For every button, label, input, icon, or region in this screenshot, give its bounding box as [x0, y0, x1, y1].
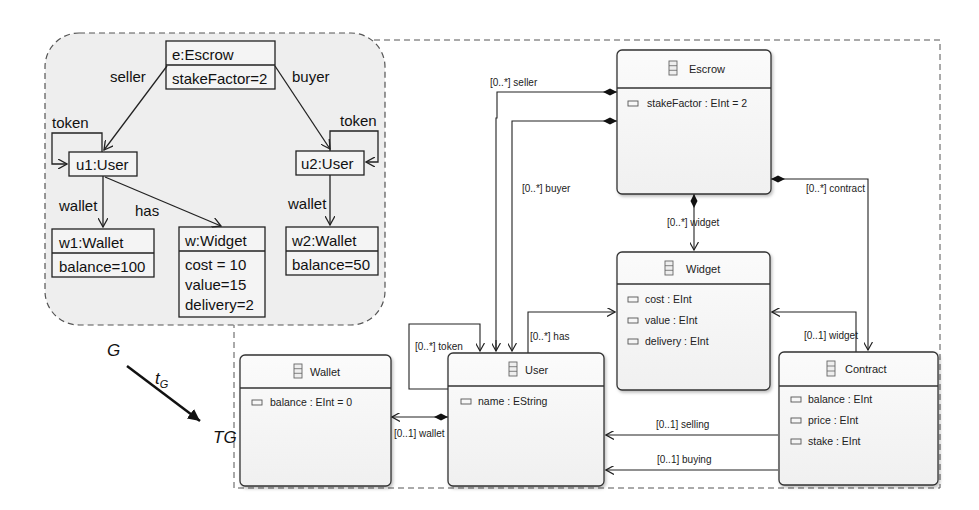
ref-token-label: [0..*] token — [415, 341, 463, 352]
class-escrow-name: Escrow — [689, 63, 725, 75]
class-widget-attr-value: value : EInt — [645, 314, 698, 326]
class-escrow-attr: stakeFactor : EInt = 2 — [647, 97, 747, 109]
edge-has-label: has — [135, 202, 159, 219]
class-contract-attr-price: price : EInt — [808, 414, 858, 426]
class-user-attr-name: name : EString — [478, 395, 548, 407]
object-w-attr-value: value=15 — [185, 276, 246, 293]
ref-has-label: [0..*] has — [530, 331, 569, 342]
edge-wallet-u1-label: wallet — [58, 197, 98, 214]
ref-widget-label: [0..*] widget — [667, 217, 719, 228]
ref-wallet-label: [0..1] wallet — [394, 428, 445, 439]
class-contract-attr-stake: stake : EInt — [808, 435, 861, 447]
class-widget-attr-delivery: delivery : EInt — [645, 335, 709, 347]
ref-buyer-label: [0..*] buyer — [522, 183, 571, 194]
object-w2-attr: balance=50 — [292, 256, 370, 273]
ref-contract — [771, 179, 868, 350]
class-icon — [827, 361, 835, 376]
class-icon — [669, 61, 677, 75]
object-w-attr-cost: cost = 10 — [185, 256, 246, 273]
object-w-name: w:Widget — [184, 232, 248, 249]
class-widget-attr-cost: cost : EInt — [645, 293, 692, 305]
ref-contract-widget-label: [0..1] widget — [804, 330, 858, 341]
edge-buyer-label: buyer — [292, 68, 330, 85]
edge-token-u1-label: token — [52, 114, 89, 131]
class-contract-attr-balance: balance : EInt — [808, 393, 872, 405]
class-icon — [294, 364, 302, 378]
instance-graph-label: G — [107, 341, 120, 360]
object-escrow[interactable]: e:Escrow stakeFactor=2 — [166, 41, 275, 89]
object-u2-name: u2:User — [301, 155, 354, 172]
object-w1-attr: balance=100 — [59, 258, 145, 275]
object-u1-user[interactable]: u1:User — [69, 152, 137, 176]
object-w1-wallet[interactable]: w1:Wallet balance=100 — [52, 229, 154, 277]
edge-seller-label: seller — [110, 68, 146, 85]
object-w2-wallet[interactable]: w2:Wallet balance=50 — [286, 227, 378, 275]
edge-wallet-u2-label: wallet — [287, 195, 327, 212]
ref-contract-label: [0..*] contract — [806, 183, 865, 194]
class-icon — [665, 261, 673, 275]
ref-buying-label: [0..1] buying — [657, 454, 711, 465]
object-u2-user[interactable]: u2:User — [296, 151, 364, 175]
edge-token-u2-label: token — [340, 112, 377, 129]
diagram-canvas: e:Escrow stakeFactor=2 u1:User u2:User w… — [0, 0, 979, 510]
class-icon — [509, 362, 517, 376]
object-escrow-attr: stakeFactor=2 — [172, 70, 267, 87]
class-user[interactable]: User name : EString — [448, 353, 604, 486]
class-contract-name: Contract — [845, 363, 887, 375]
class-contract[interactable]: Contract balance : EInt price : EInt sta… — [779, 352, 938, 485]
object-w2-name: w2:Wallet — [291, 232, 357, 249]
object-u1-name: u1:User — [76, 156, 129, 173]
class-wallet[interactable]: Wallet balance : EInt = 0 — [240, 355, 391, 486]
class-widget-name: Widget — [686, 263, 720, 275]
typing-arrow — [127, 366, 200, 421]
object-w-attr-delivery: delivery=2 — [185, 296, 254, 313]
class-wallet-attr-balance: balance : EInt = 0 — [270, 396, 352, 408]
ref-seller-label: [0..*] seller — [490, 77, 538, 88]
ref-selling-label: [0..1] selling — [656, 419, 709, 430]
type-graph-label: TG — [213, 428, 237, 447]
class-user-name: User — [525, 364, 549, 376]
class-wallet-name: Wallet — [310, 366, 340, 378]
class-widget[interactable]: Widget cost : EInt value : EInt delivery… — [617, 252, 770, 390]
object-w-widget[interactable]: w:Widget cost = 10 value=15 delivery=2 — [179, 227, 265, 317]
object-escrow-name: e:Escrow — [172, 46, 234, 63]
object-w1-name: w1:Wallet — [58, 234, 124, 251]
typing-morphism: G tG TG — [107, 341, 237, 447]
typing-morphism-label: tG — [155, 369, 169, 390]
class-escrow[interactable]: Escrow stakeFactor : EInt = 2 — [617, 50, 771, 194]
